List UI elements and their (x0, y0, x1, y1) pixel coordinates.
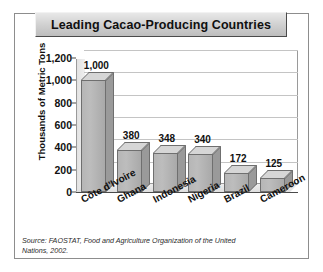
bar-value-label: 340 (194, 134, 211, 145)
bar-value-label: 125 (265, 158, 282, 169)
y-axis-tick-mark (70, 58, 76, 59)
chart-title-banner: Leading Cacao-Producing Countries (35, 12, 287, 37)
chart-figure: Leading Cacao-Producing Countries Thousa… (0, 0, 323, 272)
plot-corner-notch (76, 50, 85, 59)
y-axis-tick-mark (70, 102, 76, 103)
y-axis-tick-mark (70, 80, 76, 81)
gridline (84, 95, 298, 96)
gridline (84, 117, 298, 118)
gridline (84, 50, 298, 51)
y-axis-tick-mark (70, 169, 76, 170)
chart-plot-area: Thousands of Metric Tons 02004006008001,… (20, 44, 305, 229)
page-title: Leading Cacao-Producing Countries (51, 18, 271, 32)
y-axis-tick-mark (70, 147, 76, 148)
bar-value-label: 1,000 (84, 60, 109, 71)
y-axis-tick-mark (70, 125, 76, 126)
bar-side-face (106, 72, 114, 192)
bar-value-label: 348 (158, 133, 175, 144)
bar-front-face (81, 80, 106, 192)
plot-box: 02004006008001,0001,200 1,00038034834017… (76, 50, 298, 192)
bar-column: 1,000 (81, 80, 106, 192)
bar-value-label: 172 (230, 153, 247, 164)
gridline (84, 72, 298, 73)
y-axis-tick-label: 1,200 (46, 52, 72, 64)
source-note: Source: FAOSTAT, Food and Agriculture Or… (22, 236, 252, 255)
y-axis-tick-mark (70, 192, 76, 193)
gridline (84, 139, 298, 140)
bar-value-label: 380 (123, 130, 140, 141)
y-axis-tick-label: 1,000 (46, 74, 72, 86)
